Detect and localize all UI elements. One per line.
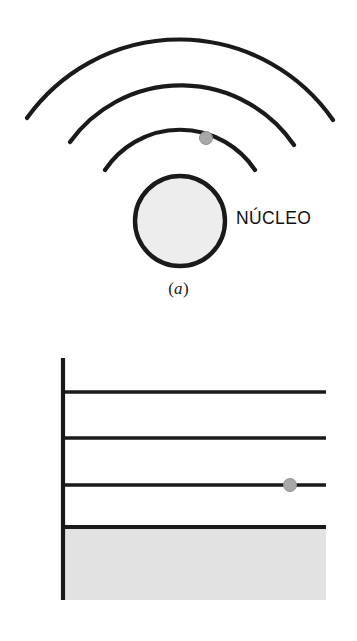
orbit-arc-inner [105, 130, 255, 170]
core-shaded-region [63, 527, 326, 600]
orbit-arc-middle [70, 85, 294, 145]
panel-a-drawing [0, 0, 357, 320]
electron-dot-panel-a [200, 132, 213, 145]
panel-a-bohr-orbits: NÚCLEO (a) [0, 0, 357, 320]
caption-a-paren-close: ) [183, 279, 189, 298]
figure-root: NÚCLEO (a) r3 r2 r1 BORDA DO NÚCLEO (b) [0, 0, 357, 641]
caption-a-letter: a [174, 279, 183, 298]
panel-b-energy-levels: r3 r2 r1 BORDA DO NÚCLEO (b) [0, 320, 357, 641]
panel-b-drawing [0, 320, 357, 641]
panel-a-caption: (a) [0, 279, 357, 299]
electron-dot-panel-b [284, 479, 297, 492]
orbit-arc-outer [27, 40, 333, 120]
nucleus-label: NÚCLEO [236, 208, 311, 229]
nucleus-circle [135, 176, 225, 266]
